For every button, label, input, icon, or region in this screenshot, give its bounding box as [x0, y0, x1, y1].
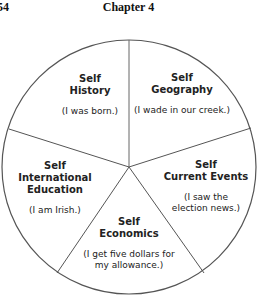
- segment-example: (I was born.): [50, 106, 130, 117]
- segment-example: (I get five dollars for: [78, 249, 180, 260]
- segment-self-geography: Self Geography (I wade in our creek.): [128, 72, 236, 116]
- segment-title: Self: [78, 216, 180, 228]
- segment-title: Economics: [78, 228, 180, 240]
- segment-title: Self: [10, 160, 100, 172]
- segment-self-economics: Self Economics (I get five dollars for m…: [78, 216, 180, 271]
- segment-title: Geography: [128, 84, 236, 96]
- segment-example: election news.): [160, 203, 252, 214]
- segment-example: (I wade in our creek.): [128, 105, 236, 116]
- segment-title: Self: [160, 159, 252, 171]
- segment-self-history: Self History (I was born.): [50, 73, 130, 117]
- segment-example: (I saw the: [160, 192, 252, 203]
- segment-self-current-events: Self Current Events (I saw the election …: [160, 159, 252, 214]
- segment-title: Current Events: [160, 171, 252, 183]
- segment-title: Self: [50, 73, 130, 85]
- segment-title: Education: [10, 184, 100, 196]
- segment-title: Self: [128, 72, 236, 84]
- segment-self-international-education: Self International Education (I am Irish…: [10, 160, 100, 216]
- segment-title: History: [50, 85, 130, 97]
- segment-example: (I am Irish.): [10, 205, 100, 216]
- segment-title: International: [10, 172, 100, 184]
- segment-example: my allowance.): [78, 260, 180, 271]
